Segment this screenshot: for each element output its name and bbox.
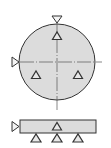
datum-arrow-top-icon xyxy=(52,16,62,23)
datum-diagram xyxy=(0,0,111,148)
side-datum-arrow-left-icon xyxy=(12,122,19,132)
top-view xyxy=(12,16,102,110)
side-view xyxy=(12,120,96,142)
datum-arrow-left-icon xyxy=(12,57,19,67)
support-right-icon xyxy=(73,134,83,142)
support-left-icon xyxy=(31,134,41,142)
support-center-icon xyxy=(52,134,62,142)
